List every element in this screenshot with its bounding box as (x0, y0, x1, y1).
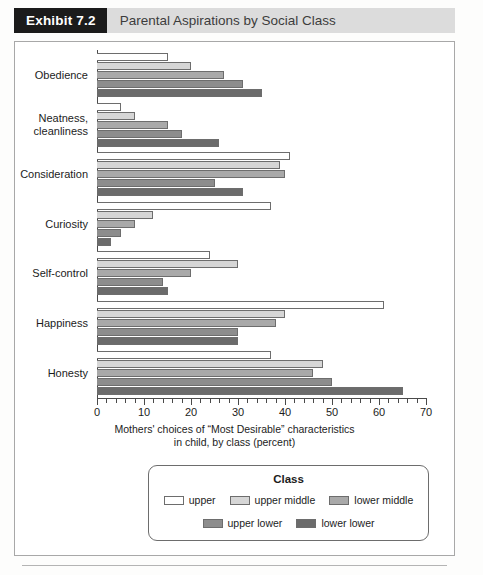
bar-row (97, 188, 426, 196)
bar-row (97, 62, 426, 70)
legend-swatch-icon (230, 496, 250, 505)
x-tick-minor (125, 399, 126, 403)
bar-row (97, 251, 426, 259)
bar-row (97, 287, 426, 295)
category-label: Happiness (36, 317, 97, 330)
bar-lower-lower (97, 287, 168, 295)
bar-row (97, 89, 426, 97)
x-tick-minor (210, 399, 211, 403)
x-tick-minor (106, 399, 107, 403)
exhibit-page: Exhibit 7.2 Parental Aspirations by Soci… (0, 0, 483, 575)
bar-row (97, 161, 426, 169)
legend-title: Class (149, 473, 428, 485)
bar-group: Honesty (97, 351, 426, 396)
bar-row (97, 179, 426, 187)
bar-lower-middle (97, 170, 285, 178)
bar-row (97, 53, 426, 61)
bar-row (97, 152, 426, 160)
bar-lower-middle (97, 269, 191, 277)
bar-upper-lower (97, 229, 121, 237)
legend-swatch-icon (203, 519, 223, 528)
footer-divider (22, 565, 447, 566)
bar-row (97, 369, 426, 377)
bar-row (97, 71, 426, 79)
bar-upper (97, 202, 271, 210)
x-axis-line (97, 398, 427, 399)
bar-row (97, 202, 426, 210)
bar-lower-lower (97, 337, 238, 345)
x-tick-label: 20 (185, 406, 197, 418)
bar-row (97, 360, 426, 368)
legend-item-lower-middle[interactable]: lower middle (329, 494, 413, 506)
legend-swatch-icon (164, 496, 184, 505)
bar-upper (97, 301, 384, 309)
x-tick-major (285, 399, 286, 405)
chart-frame: ObedienceNeatness,cleanlinessConsiderati… (14, 41, 455, 556)
bar-row (97, 351, 426, 359)
bar-row (97, 211, 426, 219)
x-tick-minor (135, 399, 136, 403)
exhibit-number-tag: Exhibit 7.2 (14, 8, 107, 33)
x-tick-minor (398, 399, 399, 403)
x-tick-minor (200, 399, 201, 403)
plot-area: ObedienceNeatness,cleanlinessConsiderati… (97, 50, 426, 398)
x-tick-minor (257, 399, 258, 403)
x-tick-minor (351, 399, 352, 403)
legend-item-upper[interactable]: upper (164, 494, 216, 506)
bar-upper-lower (97, 130, 182, 138)
x-tick-minor (417, 399, 418, 403)
legend-label: lower lower (321, 517, 374, 529)
legend-swatch-icon (296, 519, 316, 528)
x-tick-minor (153, 399, 154, 403)
x-tick-minor (360, 399, 361, 403)
x-tick-minor (370, 399, 371, 403)
bar-row (97, 328, 426, 336)
x-tick-label: 10 (138, 406, 150, 418)
bar-upper (97, 351, 271, 359)
category-label: Self-control (32, 267, 97, 280)
x-axis-caption: Mothers' choices of “Most Desirable” cha… (15, 423, 454, 449)
bar-row (97, 220, 426, 228)
x-tick-minor (229, 399, 230, 403)
bar-lower-lower (97, 238, 111, 246)
exhibit-header: Exhibit 7.2 Parental Aspirations by Soci… (14, 8, 455, 33)
x-tick-major (332, 399, 333, 405)
x-tick-label: 70 (420, 406, 432, 418)
legend-item-upper-lower[interactable]: upper lower (203, 517, 283, 529)
bar-row (97, 80, 426, 88)
x-tick-minor (182, 399, 183, 403)
bar-group: Self-control (97, 251, 426, 296)
bar-upper-lower (97, 378, 332, 386)
bar-upper-lower (97, 179, 215, 187)
x-tick-major (426, 399, 427, 405)
bar-group: Curiosity (97, 202, 426, 247)
bar-lower-middle (97, 71, 224, 79)
bar-row (97, 229, 426, 237)
legend-item-upper-middle[interactable]: upper middle (230, 494, 316, 506)
bar-row (97, 103, 426, 111)
legend-item-lower-lower[interactable]: lower lower (296, 517, 374, 529)
bar-row (97, 378, 426, 386)
category-label: Consideration (20, 168, 97, 181)
x-tick-label: 0 (94, 406, 100, 418)
x-tick-label: 40 (279, 406, 291, 418)
bar-upper-middle (97, 310, 285, 318)
bar-row (97, 238, 426, 246)
x-tick-minor (407, 399, 408, 403)
legend-row-secondary: upper lowerlower lower (149, 517, 428, 529)
bar-group: Neatness,cleanliness (97, 103, 426, 148)
x-tick-minor (163, 399, 164, 403)
bar-lower-lower (97, 139, 219, 147)
category-label: Neatness,cleanliness (34, 112, 97, 137)
bar-row (97, 319, 426, 327)
category-label: Obedience (35, 69, 97, 82)
x-tick-minor (388, 399, 389, 403)
legend-label: upper (189, 494, 216, 506)
bar-upper-middle (97, 161, 280, 169)
bar-upper-middle (97, 360, 323, 368)
bar-lower-lower (97, 387, 403, 395)
x-axis-caption-line2: in child, by class (percent) (15, 436, 454, 449)
x-tick-label: 50 (326, 406, 338, 418)
x-tick-minor (247, 399, 248, 403)
bar-lower-lower (97, 89, 262, 97)
